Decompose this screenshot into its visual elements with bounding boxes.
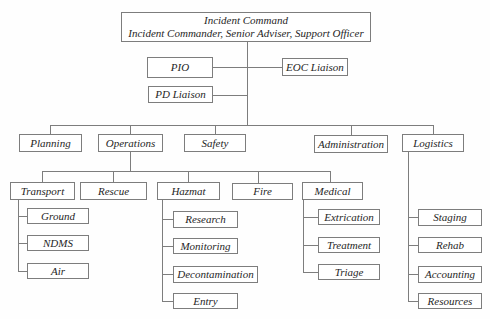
node-accounting: Accounting [418, 266, 482, 283]
node-research: Research [173, 211, 238, 228]
incident-command-org-chart: Incident Command Incident Commander, Sen… [0, 0, 490, 319]
node-entry: Entry [173, 293, 238, 309]
incident-command-subtitle: Incident Commander, Senior Adviser, Supp… [128, 27, 363, 40]
node-staging: Staging [418, 209, 482, 226]
node-extrication: Extrication [318, 209, 380, 225]
node-eoc-liaison: EOC Liaison [282, 58, 348, 76]
node-decontamination: Decontamination [173, 266, 258, 283]
node-fire: Fire [232, 183, 293, 200]
node-resources: Resources [418, 293, 482, 309]
node-air: Air [27, 263, 89, 279]
node-incident-command: Incident Command Incident Commander, Sen… [121, 12, 371, 42]
node-planning: Planning [19, 134, 82, 152]
node-medical: Medical [302, 182, 363, 200]
node-operations: Operations [98, 134, 163, 152]
node-administration: Administration [314, 135, 388, 153]
node-hazmat: Hazmat [157, 182, 220, 200]
node-ndms: NDMS [27, 235, 89, 251]
node-safety: Safety [184, 134, 246, 152]
node-logistics: Logistics [402, 134, 464, 152]
node-ground: Ground [27, 208, 89, 224]
incident-command-title: Incident Command [204, 14, 288, 27]
node-rehab: Rehab [418, 237, 482, 253]
node-pio: PIO [147, 57, 213, 78]
node-treatment: Treatment [318, 237, 380, 253]
node-pd-liaison: PD Liaison [148, 86, 213, 103]
node-rescue: Rescue [80, 182, 147, 200]
node-monitoring: Monitoring [173, 238, 238, 254]
node-transport: Transport [10, 182, 75, 200]
node-triage: Triage [318, 264, 380, 280]
